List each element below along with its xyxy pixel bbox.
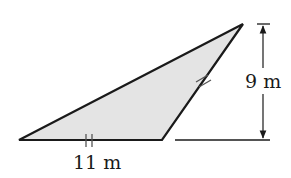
height-label: 9 m [245,70,281,92]
triangle-shape [19,24,243,140]
base-label: 11 m [73,151,121,173]
triangle-diagram: 9 m 11 m [0,0,291,178]
